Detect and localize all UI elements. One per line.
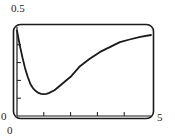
axis-ticks bbox=[17, 45, 124, 116]
data-curve bbox=[17, 31, 151, 95]
plot-area bbox=[0, 0, 175, 138]
